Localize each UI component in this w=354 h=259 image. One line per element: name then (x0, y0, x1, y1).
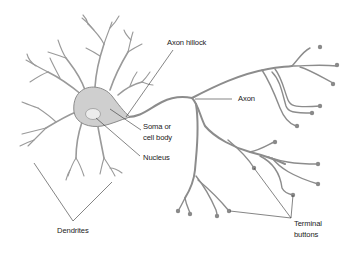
label-terminal-line1: Terminal (294, 219, 322, 229)
axon (126, 48, 337, 216)
nucleus (86, 109, 101, 120)
label-soma-line1: Soma or (143, 122, 171, 132)
label-nucleus: Nucleus (143, 153, 170, 163)
label-axon: Axon (238, 94, 255, 104)
label-dendrites: Dendrites (57, 226, 89, 236)
label-soma-line2: cell body (143, 133, 172, 143)
label-axon-hillock: Axon hillock (167, 38, 206, 48)
label-terminal-line2: buttons (294, 230, 318, 240)
